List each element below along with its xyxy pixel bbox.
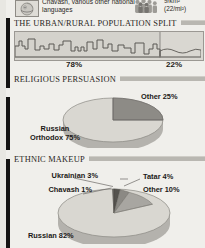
top-info-strip: Chavash, various other national language… bbox=[14, 0, 205, 18]
population-density-icon bbox=[133, 0, 159, 15]
religion-orthodox-label-line2: Orthodox 75% bbox=[12, 133, 98, 142]
religion-heading-text: RELIGIOUS PERSUASION bbox=[14, 75, 116, 84]
heading-rule bbox=[181, 20, 205, 25]
ethnic-other-label: Other 10% bbox=[143, 185, 180, 194]
urban-rural-value-row: 78% 22% bbox=[14, 60, 202, 71]
ethnic-heading-text: ETHNIC MAKEUP bbox=[14, 155, 85, 164]
section-heading-religion: RELIGIOUS PERSUASION bbox=[14, 75, 205, 86]
face-languages-icon bbox=[15, 0, 39, 17]
urban-percent-label: 78% bbox=[66, 60, 82, 69]
page-gutter-gap-2 bbox=[6, 150, 10, 159]
density-text: 9/km² (22/mi²) bbox=[164, 0, 205, 13]
page-gutter-bar bbox=[6, 18, 10, 248]
section-heading-urban-rural: THE URBAN/RURAL POPULATION SPLIT bbox=[14, 19, 205, 30]
religion-orthodox-label-line1: Russian bbox=[22, 124, 88, 133]
ethnic-ukrainian-label: Ukrainian 3% bbox=[26, 171, 98, 180]
rural-percent-label: 22% bbox=[166, 60, 182, 69]
density-imperial: (22/mi²) bbox=[164, 5, 205, 13]
page-gutter-gap-1 bbox=[6, 88, 10, 97]
urban-rural-heading-text: THE URBAN/RURAL POPULATION SPLIT bbox=[14, 19, 177, 28]
ethnic-chavash-label: Chavash 1% bbox=[22, 185, 92, 194]
language-text: Chavash, various other national language… bbox=[42, 0, 142, 15]
ethnic-tatar-label: Tatar 4% bbox=[143, 172, 173, 181]
religion-other-label: Other 25% bbox=[141, 92, 178, 101]
ethnic-russian-label: Russian 82% bbox=[28, 231, 74, 240]
section-heading-ethnic: ETHNIC MAKEUP bbox=[14, 155, 205, 166]
urban-rural-skyline-chart bbox=[14, 31, 204, 61]
heading-rule bbox=[89, 156, 205, 161]
page-canvas: Chavash, various other national language… bbox=[0, 0, 205, 248]
heading-rule bbox=[120, 76, 205, 81]
